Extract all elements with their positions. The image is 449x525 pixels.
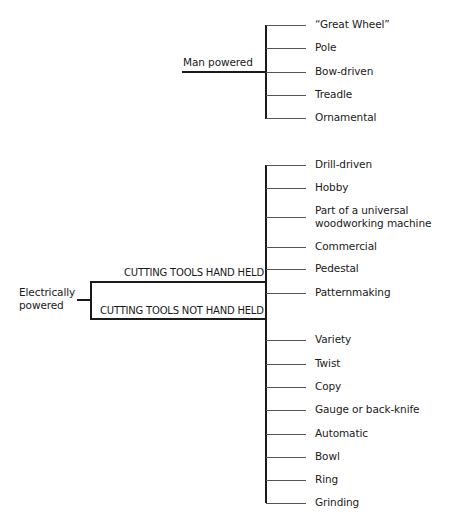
branch-line xyxy=(266,72,306,73)
branch-line xyxy=(266,95,306,96)
branch-line xyxy=(266,340,306,341)
branch-line xyxy=(266,434,306,435)
item-universal-line2: woodworking machine xyxy=(315,217,431,230)
item-commercial: Commercial xyxy=(315,240,377,253)
bracket-top xyxy=(90,281,267,283)
item-bowl: Bowl xyxy=(315,450,340,463)
item-pole: Pole xyxy=(315,41,336,54)
branch-line xyxy=(266,269,306,270)
branch-line xyxy=(266,503,306,504)
bracket-bottom xyxy=(90,318,267,320)
item-gauge-back-knife: Gauge or back-knife xyxy=(315,403,419,416)
powered-label: powered xyxy=(19,299,64,312)
man-powered-label: Man powered xyxy=(183,56,253,69)
branch-not-hand-held-label: CUTTING TOOLS NOT HAND HELD xyxy=(100,305,264,317)
branch-line xyxy=(266,25,306,26)
man-powered-stem xyxy=(182,71,266,73)
item-ornamental: Ornamental xyxy=(315,111,376,124)
branch-line xyxy=(266,48,306,49)
item-variety: Variety xyxy=(315,333,351,346)
item-patternmaking: Patternmaking xyxy=(315,286,390,299)
item-copy: Copy xyxy=(315,380,341,393)
bracket-left xyxy=(90,281,92,320)
electrically-label: Electrically xyxy=(19,286,75,299)
item-treadle: Treadle xyxy=(315,88,352,101)
item-great-wheel: “Great Wheel” xyxy=(315,18,390,31)
branch-line xyxy=(266,247,306,248)
branch-line xyxy=(266,293,306,294)
item-grinding: Grinding xyxy=(315,496,359,509)
item-universal-line1: Part of a universal xyxy=(315,204,408,217)
branch-line xyxy=(266,410,306,411)
branch-line xyxy=(266,457,306,458)
branch-line xyxy=(266,480,306,481)
item-ring: Ring xyxy=(315,473,338,486)
branch-line xyxy=(266,217,306,218)
branch-line xyxy=(266,188,306,189)
item-drill-driven: Drill-driven xyxy=(315,158,372,171)
branch-hand-held-label: CUTTING TOOLS HAND HELD xyxy=(124,267,264,279)
electric-spine xyxy=(265,165,267,503)
item-automatic: Automatic xyxy=(315,427,368,440)
branch-line xyxy=(266,387,306,388)
item-hobby: Hobby xyxy=(315,181,348,194)
item-pedestal: Pedestal xyxy=(315,262,359,275)
branch-line xyxy=(266,118,306,119)
item-bow-driven: Bow-driven xyxy=(315,65,373,78)
branch-line xyxy=(266,364,306,365)
branch-line xyxy=(266,165,306,166)
electric-stem xyxy=(77,299,91,301)
item-twist: Twist xyxy=(315,357,340,370)
